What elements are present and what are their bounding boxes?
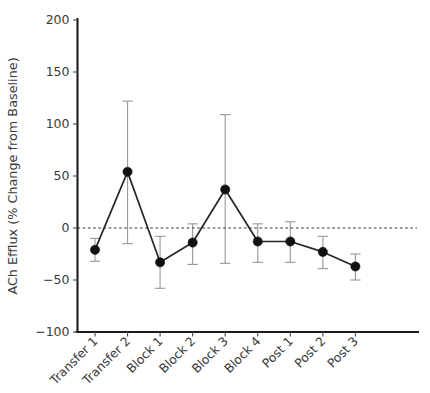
y-axis-title: ACh Efflux (% Change from Baseline) bbox=[5, 57, 20, 294]
data-point-marker bbox=[156, 258, 165, 267]
data-point-marker bbox=[221, 185, 230, 194]
data-point-marker bbox=[253, 237, 262, 246]
y-axis-ticks: 200150100500−50−100 bbox=[35, 12, 77, 339]
y-tick-label: 0 bbox=[62, 220, 70, 235]
x-axis-ticks: Transfer 1Transfer 2Block 1Block 2Block … bbox=[47, 332, 361, 388]
data-point-marker bbox=[351, 262, 360, 271]
y-tick-label: 100 bbox=[46, 116, 70, 131]
y-tick-label: −50 bbox=[43, 272, 69, 287]
y-tick-label: 200 bbox=[46, 12, 70, 27]
x-tick-label: Post 2 bbox=[292, 334, 328, 370]
data-point-marker bbox=[123, 167, 132, 176]
y-tick-label: 50 bbox=[54, 168, 70, 183]
line-chart: 200150100500−50−100 Transfer 1Transfer 2… bbox=[0, 0, 430, 393]
y-tick-label: 150 bbox=[46, 64, 70, 79]
x-tick-label: Post 3 bbox=[325, 334, 361, 370]
error-bars-group bbox=[90, 101, 361, 288]
y-tick-label: −100 bbox=[35, 324, 69, 339]
y-axis-title-text: ACh Efflux (% Change from Baseline) bbox=[5, 57, 20, 294]
x-tick-label: Post 1 bbox=[260, 334, 296, 370]
data-point-marker bbox=[286, 237, 295, 246]
data-point-marker bbox=[90, 245, 99, 254]
x-tick-label: Block 4 bbox=[222, 334, 264, 376]
data-point-marker bbox=[188, 238, 197, 247]
data-point-marker bbox=[318, 247, 327, 256]
chart-figure: 200150100500−50−100 Transfer 1Transfer 2… bbox=[0, 0, 430, 393]
